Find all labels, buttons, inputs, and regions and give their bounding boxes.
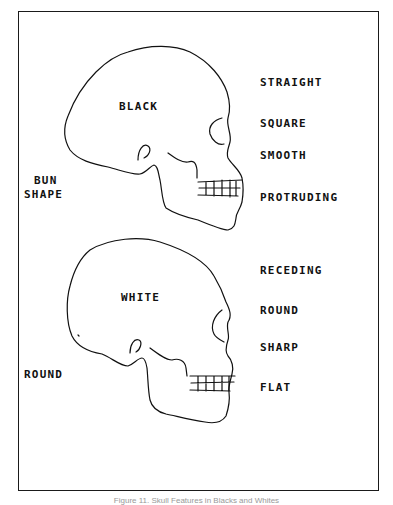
white-skull-outline	[67, 239, 235, 423]
stray-mark	[78, 335, 79, 336]
white-feature-round: ROUND	[260, 305, 299, 317]
black-feature-straight: STRAIGHT	[260, 77, 323, 89]
skull-drawings	[0, 0, 393, 505]
black-back-label-line1: BUN	[34, 175, 57, 187]
white-back-label: ROUND	[24, 369, 63, 381]
figure-caption: Figure 11. Skull Features in Blacks and …	[0, 496, 393, 505]
black-feature-square: SQUARE	[260, 118, 307, 130]
black-feature-smooth: SMOOTH	[260, 150, 307, 162]
black-skull-outline	[65, 46, 243, 230]
white-feature-flat: FLAT	[260, 382, 291, 394]
white-feature-sharp: SHARP	[260, 342, 299, 354]
white-skull-label: WHITE	[121, 292, 160, 304]
black-feature-protruding: PROTRUDING	[260, 192, 338, 204]
white-feature-receding: RECEDING	[260, 265, 323, 277]
black-skull-label: BLACK	[119, 101, 158, 113]
black-back-label-line2: SHAPE	[24, 189, 63, 201]
